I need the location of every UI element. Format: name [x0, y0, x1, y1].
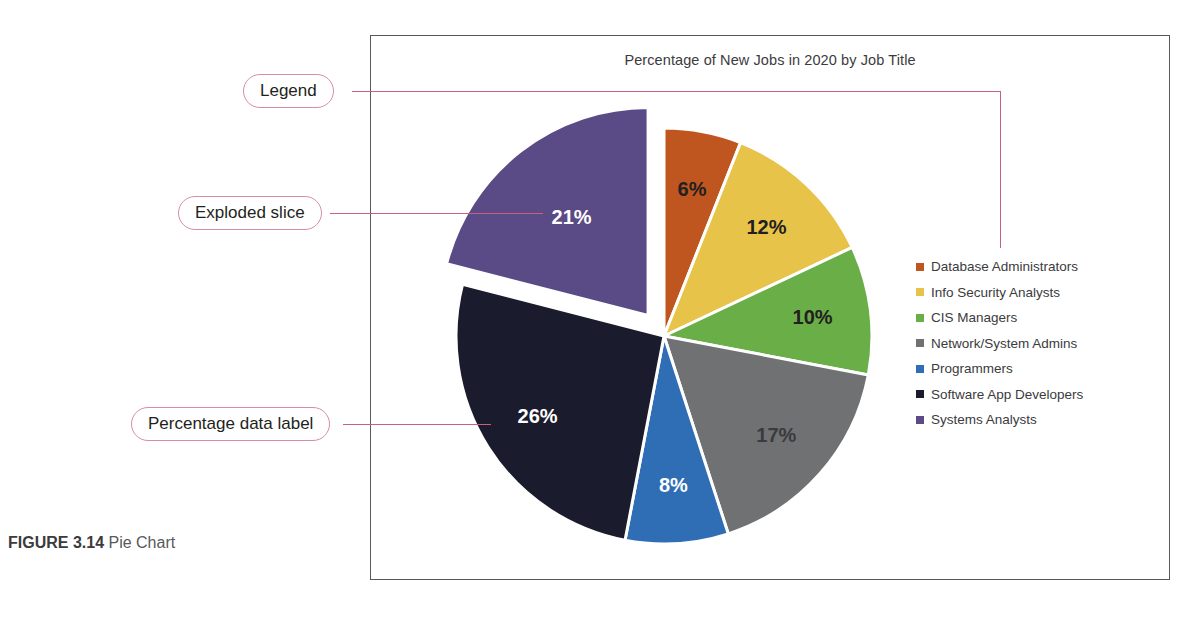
callout-percentage-data-label: Percentage data label	[131, 407, 330, 441]
pie-data-label: 8%	[659, 474, 688, 496]
leader-line-exploded-slice	[330, 213, 543, 214]
pie-data-label: 10%	[793, 306, 833, 328]
legend-swatch-icon	[916, 390, 924, 398]
legend-swatch-icon	[916, 263, 924, 271]
pie-slice	[456, 284, 664, 540]
leader-line-legend	[352, 91, 1001, 92]
pie-chart: 6%12%10%17%8%26%21%	[381, 81, 911, 571]
legend-swatch-icon	[916, 416, 924, 424]
pie-slice	[447, 107, 648, 315]
legend-item: Software App Developers	[916, 382, 1166, 408]
legend-item-label: Systems Analysts	[931, 412, 1037, 427]
pie-svg: 6%12%10%17%8%26%21%	[381, 81, 911, 571]
legend-item: Systems Analysts	[916, 407, 1166, 433]
figure-number: FIGURE 3.14	[8, 534, 104, 551]
chart-title: Percentage of New Jobs in 2020 by Job Ti…	[371, 52, 1169, 68]
legend-item-label: Info Security Analysts	[931, 285, 1060, 300]
pie-data-label: 26%	[518, 405, 558, 427]
legend-item: Info Security Analysts	[916, 280, 1166, 306]
legend-item-label: Programmers	[931, 361, 1013, 376]
pie-data-label: 17%	[756, 424, 796, 446]
legend-swatch-icon	[916, 365, 924, 373]
legend-item-label: Network/System Admins	[931, 336, 1077, 351]
figure-caption-text: Pie Chart	[108, 534, 175, 551]
legend-item-label: Database Administrators	[931, 259, 1078, 274]
leader-line-legend-vertical	[1000, 91, 1001, 248]
pie-data-label: 12%	[747, 216, 787, 238]
chart-legend: Database AdministratorsInfo Security Ana…	[916, 254, 1166, 433]
legend-item-label: CIS Managers	[931, 310, 1017, 325]
pie-data-label: 21%	[552, 206, 592, 228]
legend-swatch-icon	[916, 288, 924, 296]
legend-item: CIS Managers	[916, 305, 1166, 331]
legend-item: Network/System Admins	[916, 331, 1166, 357]
legend-item: Programmers	[916, 356, 1166, 382]
figure-caption: FIGURE 3.14 Pie Chart	[8, 534, 175, 552]
pie-data-label: 6%	[678, 178, 707, 200]
leader-line-data-label	[343, 424, 491, 425]
legend-item-label: Software App Developers	[931, 387, 1083, 402]
callout-legend: Legend	[243, 74, 334, 108]
chart-frame: Percentage of New Jobs in 2020 by Job Ti…	[370, 35, 1170, 580]
legend-item: Database Administrators	[916, 254, 1166, 280]
legend-swatch-icon	[916, 314, 924, 322]
legend-swatch-icon	[916, 339, 924, 347]
callout-exploded-slice: Exploded slice	[178, 196, 322, 230]
